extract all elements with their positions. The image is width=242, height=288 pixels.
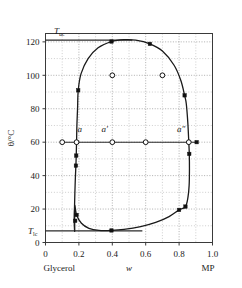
point-label: a′ [102,124,110,134]
marker-filled-square [110,229,113,232]
marker-open-circle [60,140,65,145]
marker-filled-square [188,152,191,155]
x-tick-label: 1.0 [207,249,219,259]
marker-open-circle [110,140,115,145]
y-tick-label: 100 [26,71,40,81]
marker-open-circle [186,140,191,145]
x-tick-label: 0 [43,249,48,259]
point-label: a″ [177,124,186,134]
marker-filled-square [74,164,77,167]
data-markers-filled [74,40,199,232]
marker-open-circle [74,140,79,145]
x-tick-label: 0.2 [73,249,84,259]
marker-filled-square [177,208,180,211]
x-axis-title: w [126,263,132,273]
right-component-label: MP [201,263,214,273]
y-tick-label: 20 [31,204,41,214]
marker-filled-square [183,94,186,97]
chart-canvas: 00.20.40.60.81.0020406080100120wθ/°CGlyc… [0,0,242,288]
critical-temperature-lines [46,40,143,231]
marker-filled-square [195,140,198,143]
marker-filled-square [77,89,80,92]
x-tick-label: 0.8 [173,249,185,259]
marker-filled-square [74,219,77,222]
binodal-loop-path [74,40,189,232]
y-tick-label: 80 [31,104,41,114]
x-tick-label: 0.4 [107,249,119,259]
marker-open-circle [143,140,148,145]
y-axis-title: θ/°C [6,130,16,146]
x-tick-label: 0.6 [140,249,152,259]
marker-filled-square [148,42,151,45]
binodal-curve [74,40,189,232]
marker-open-circle [160,73,165,78]
marker-filled-square [184,205,187,208]
upper-critical-temperature-label: Tuc [54,26,65,37]
point-label: a [77,124,82,134]
y-tick-label: 120 [26,37,40,47]
phase-diagram-figure: 00.20.40.60.81.0020406080100120wθ/°CGlyc… [0,0,242,288]
marker-filled-square [110,40,113,43]
y-tick-label: 0 [35,238,40,248]
marker-filled-square [75,154,78,157]
lower-critical-temperature-label: Tlc [28,226,38,237]
gridlines [46,34,213,243]
marker-filled-square [75,213,78,216]
left-component-label: Glycerol [44,263,76,273]
marker-open-circle [110,73,115,78]
y-tick-label: 60 [31,137,41,147]
y-tick-label: 40 [31,171,41,181]
